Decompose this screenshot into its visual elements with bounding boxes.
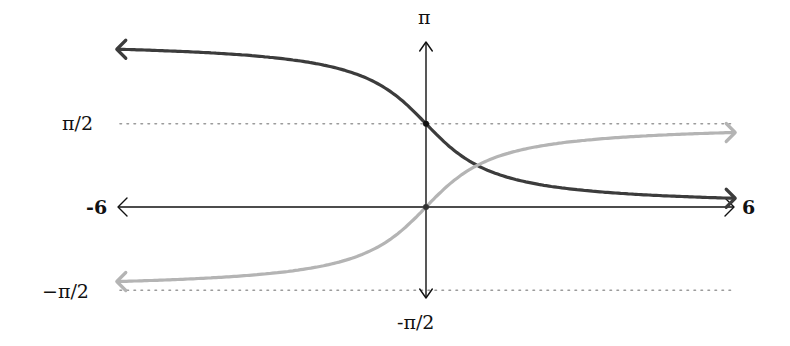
x-axis-left-label: -6 — [86, 198, 107, 217]
y-label-half-pi: π/2 — [62, 114, 93, 133]
chart-canvas: π π/2 −π/2 -π/2 -6 6 — [0, 0, 790, 346]
x-axis-right-label: 6 — [742, 198, 755, 217]
arctan-point-marker — [423, 204, 429, 210]
y-axis-top-label: π — [418, 8, 431, 27]
y-label-neg-half-pi: −π/2 — [42, 282, 89, 301]
arccot-point-marker — [423, 121, 429, 127]
plot-area — [0, 0, 790, 346]
y-axis-bottom-label: -π/2 — [397, 313, 434, 332]
